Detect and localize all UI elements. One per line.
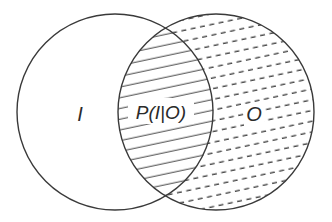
label-set-i: I [77,103,83,125]
venn-diagram: I P(I|O) O [0,0,332,222]
label-set-o: O [246,103,262,125]
label-intersection: P(I|O) [136,102,186,123]
